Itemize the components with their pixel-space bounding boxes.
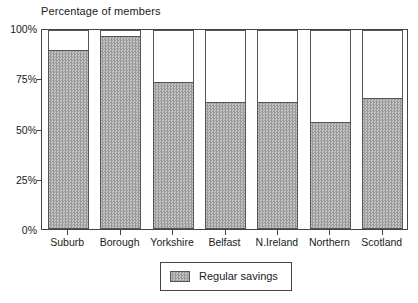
x-tick-label-northern: Northern: [303, 236, 355, 249]
y-axis-ticks: [0, 29, 45, 230]
x-tick-mark: [172, 230, 173, 235]
x-tick-mark: [120, 230, 121, 235]
x-tick-mark: [382, 230, 383, 235]
x-axis-labels: SuburbBoroughYorkshireBelfastN.IrelandNo…: [41, 236, 408, 252]
x-tick-mark: [277, 230, 278, 235]
legend-label-regular-savings: Regular savings: [199, 270, 278, 283]
bar-group: [48, 30, 89, 229]
x-tick-label-borough: Borough: [93, 236, 145, 249]
bar-group: [100, 30, 141, 229]
legend-swatch-regular-savings: [170, 271, 190, 282]
bar-fill-regular-savings: [48, 50, 89, 229]
x-tick-label-belfast: Belfast: [198, 236, 250, 249]
bar-fill-regular-savings: [310, 122, 351, 229]
bar-chart: Percentage of members 0%25%50%75%100% Su…: [0, 0, 418, 303]
chart-legend: Regular savings: [160, 262, 292, 291]
bar-fill-regular-savings: [153, 82, 194, 229]
x-tick-label-n-ireland: N.Ireland: [251, 236, 303, 249]
x-tick-label-scotland: Scotland: [356, 236, 408, 249]
plot-area: [41, 29, 408, 230]
x-tick-label-suburb: Suburb: [41, 236, 93, 249]
x-tick-mark: [67, 230, 68, 235]
bar-group: [153, 30, 194, 229]
bars-layer: [42, 30, 407, 229]
bar-fill-regular-savings: [362, 98, 403, 229]
bar-group: [257, 30, 298, 229]
bar-fill-regular-savings: [257, 102, 298, 229]
x-tick-mark: [329, 230, 330, 235]
bar-fill-regular-savings: [100, 36, 141, 229]
bar-group: [310, 30, 351, 229]
x-tick-label-yorkshire: Yorkshire: [146, 236, 198, 249]
bar-group: [205, 30, 246, 229]
x-tick-mark: [225, 230, 226, 235]
bar-fill-regular-savings: [205, 102, 246, 229]
bar-group: [362, 30, 403, 229]
chart-title: Percentage of members: [41, 5, 161, 18]
